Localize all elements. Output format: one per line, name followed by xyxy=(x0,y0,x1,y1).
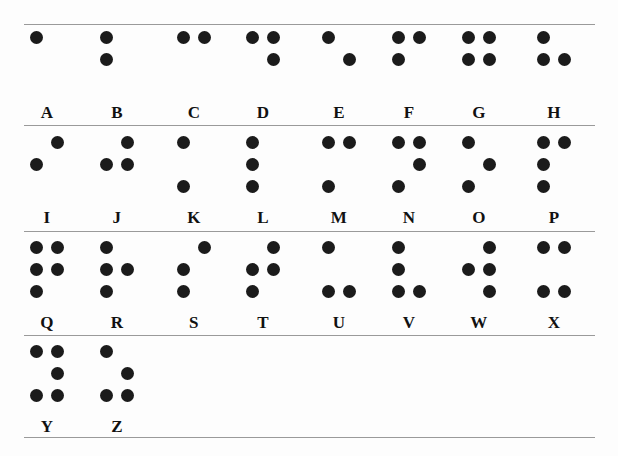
braille-dot-6 xyxy=(343,285,356,298)
letter-label-f: F xyxy=(385,103,433,123)
braille-dot-2 xyxy=(392,53,405,66)
braille-dot-5 xyxy=(121,263,134,276)
braille-dot-2 xyxy=(462,263,475,276)
braille-dot-1 xyxy=(462,31,475,44)
braille-cell-d: D xyxy=(246,31,280,97)
braille-dot-3 xyxy=(322,285,335,298)
braille-dot-4 xyxy=(267,241,280,254)
braille-dot-grid xyxy=(30,345,64,411)
braille-dot-grid xyxy=(177,31,211,97)
braille-dot-grid xyxy=(100,136,134,202)
letter-label-j: J xyxy=(93,208,141,228)
braille-cell-a: A xyxy=(30,31,64,97)
braille-dot-grid xyxy=(246,31,280,97)
braille-dot-grid xyxy=(322,31,356,97)
braille-dot-3 xyxy=(30,389,43,402)
braille-dot-3 xyxy=(462,180,475,193)
braille-dot-4 xyxy=(483,31,496,44)
braille-dot-1 xyxy=(322,241,335,254)
braille-dot-grid xyxy=(537,31,571,97)
braille-dot-3 xyxy=(537,285,550,298)
braille-cell-x: X xyxy=(537,241,571,307)
braille-dot-3 xyxy=(177,285,190,298)
braille-dot-grid xyxy=(322,136,356,202)
braille-dot-2 xyxy=(246,263,259,276)
braille-cell-i: I xyxy=(30,136,64,202)
braille-dot-1 xyxy=(322,31,335,44)
braille-dot-1 xyxy=(246,31,259,44)
braille-dot-3 xyxy=(100,285,113,298)
braille-dot-grid xyxy=(462,241,496,307)
braille-dot-3 xyxy=(177,180,190,193)
letter-label-s: S xyxy=(170,313,218,333)
separator-rule xyxy=(24,335,595,336)
braille-cell-v: V xyxy=(392,241,426,307)
braille-dot-1 xyxy=(177,136,190,149)
braille-cell-r: R xyxy=(100,241,134,307)
braille-dot-3 xyxy=(322,180,335,193)
letter-label-x: X xyxy=(530,313,578,333)
braille-dot-4 xyxy=(51,345,64,358)
braille-dot-2 xyxy=(100,263,113,276)
braille-dot-grid xyxy=(30,241,64,307)
braille-dot-1 xyxy=(100,31,113,44)
braille-cell-f: F xyxy=(392,31,426,97)
braille-dot-1 xyxy=(392,31,405,44)
separator-rule xyxy=(24,437,595,438)
braille-dot-1 xyxy=(537,31,550,44)
braille-cell-u: U xyxy=(322,241,356,307)
braille-dot-4 xyxy=(51,241,64,254)
braille-dot-grid xyxy=(30,31,64,97)
braille-cell-w: W xyxy=(462,241,496,307)
braille-dot-2 xyxy=(100,53,113,66)
braille-dot-1 xyxy=(392,241,405,254)
braille-alphabet-chart: ABCDEFGHIJKLMNOPQRSTUVWXYZ xyxy=(0,0,618,456)
braille-dot-3 xyxy=(30,285,43,298)
braille-dot-grid xyxy=(392,31,426,97)
braille-dot-1 xyxy=(30,345,43,358)
braille-dot-grid xyxy=(100,345,134,411)
braille-dot-4 xyxy=(121,136,134,149)
separator-rule xyxy=(24,24,595,25)
letter-label-l: L xyxy=(239,208,287,228)
braille-dot-4 xyxy=(198,31,211,44)
braille-dot-2 xyxy=(30,263,43,276)
letter-label-r: R xyxy=(93,313,141,333)
letter-label-y: Y xyxy=(23,417,71,437)
braille-dot-1 xyxy=(177,31,190,44)
braille-dot-6 xyxy=(413,285,426,298)
braille-dot-1 xyxy=(537,136,550,149)
braille-dot-5 xyxy=(343,53,356,66)
braille-dot-grid xyxy=(177,136,211,202)
braille-dot-4 xyxy=(558,241,571,254)
braille-dot-1 xyxy=(537,241,550,254)
braille-dot-2 xyxy=(392,263,405,276)
braille-cell-k: K xyxy=(177,136,211,202)
letter-label-i: I xyxy=(23,208,71,228)
braille-dot-2 xyxy=(246,158,259,171)
braille-cell-c: C xyxy=(177,31,211,97)
braille-dot-4 xyxy=(343,136,356,149)
braille-dot-1 xyxy=(392,136,405,149)
braille-dot-6 xyxy=(558,285,571,298)
braille-cell-t: T xyxy=(246,241,280,307)
braille-dot-grid xyxy=(246,136,280,202)
braille-cell-s: S xyxy=(177,241,211,307)
braille-dot-grid xyxy=(462,31,496,97)
braille-dot-5 xyxy=(558,53,571,66)
braille-dot-5 xyxy=(413,158,426,171)
braille-dot-4 xyxy=(51,136,64,149)
braille-cell-g: G xyxy=(462,31,496,97)
braille-dot-6 xyxy=(51,389,64,402)
braille-dot-1 xyxy=(100,345,113,358)
braille-dot-3 xyxy=(246,285,259,298)
braille-dot-2 xyxy=(537,158,550,171)
letter-label-p: P xyxy=(530,208,578,228)
letter-label-e: E xyxy=(315,103,363,123)
braille-dot-5 xyxy=(121,367,134,380)
braille-dot-1 xyxy=(322,136,335,149)
braille-dot-5 xyxy=(51,263,64,276)
braille-cell-q: Q xyxy=(30,241,64,307)
braille-dot-5 xyxy=(267,53,280,66)
braille-dot-2 xyxy=(177,263,190,276)
